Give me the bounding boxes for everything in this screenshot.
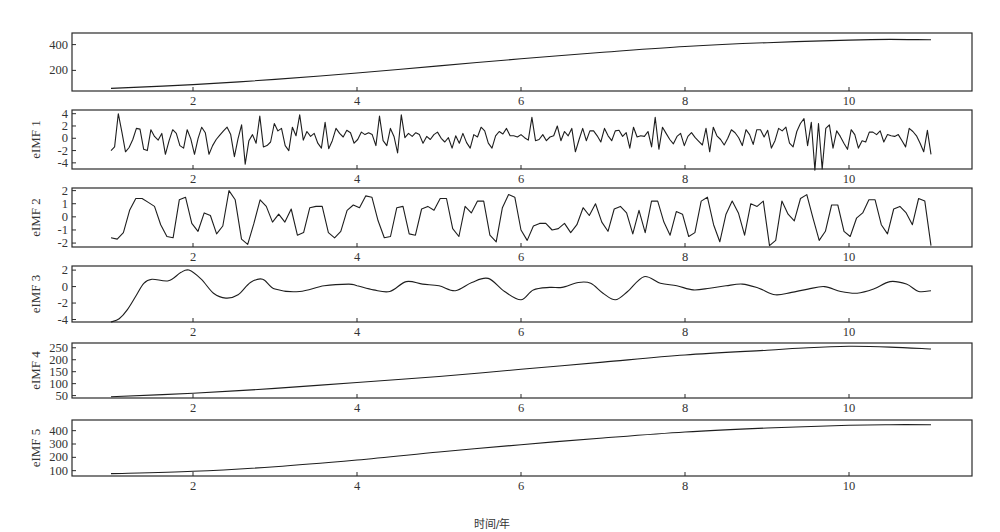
x-tick-label: 6 xyxy=(518,94,524,108)
y-axis-label: eIMF 5 xyxy=(28,429,43,468)
x-tick-label: 2 xyxy=(190,325,196,339)
x-tick-label: 10 xyxy=(843,172,856,186)
y-tick-label: 0 xyxy=(62,131,68,145)
x-tick-label: 8 xyxy=(682,172,688,186)
y-tick-label: 2 xyxy=(62,184,68,198)
y-tick-label: 300 xyxy=(49,437,68,451)
y-tick-label: -2 xyxy=(58,236,68,250)
axes-frame xyxy=(72,188,972,247)
x-axis-label: 时间/年 xyxy=(474,517,511,531)
axes-frame xyxy=(72,266,972,322)
x-tick-label: 6 xyxy=(518,250,524,264)
y-tick-label: 200 xyxy=(49,63,68,77)
x-tick-label: 10 xyxy=(843,325,856,339)
x-tick-label: 10 xyxy=(843,94,856,108)
x-tick-label: 2 xyxy=(190,172,196,186)
x-tick-label: 4 xyxy=(354,325,361,339)
x-tick-label: 8 xyxy=(682,479,688,493)
x-tick-label: 4 xyxy=(354,250,361,264)
x-tick-label: 4 xyxy=(354,401,361,415)
subplot-stack: 200400246810-4-2024246810eIMF 1-2-101224… xyxy=(28,33,972,493)
series-line-eimf5 xyxy=(111,425,931,474)
y-axis-label: eIMF 4 xyxy=(28,351,43,390)
y-tick-label: 2 xyxy=(62,263,68,277)
y-tick-label: 2 xyxy=(62,119,68,133)
x-tick-label: 6 xyxy=(518,325,524,339)
axes-frame xyxy=(72,33,972,91)
x-tick-label: 10 xyxy=(843,250,856,264)
subplot-original: 200400246810 xyxy=(49,33,972,108)
subplot-eimf1: -4-2024246810eIMF 1 xyxy=(28,107,972,186)
x-tick-label: 8 xyxy=(682,401,688,415)
y-tick-label: -4 xyxy=(58,156,69,170)
y-tick-label: 400 xyxy=(49,38,68,52)
subplot-eimf4: 50100150200250246810eIMF 4 xyxy=(28,341,972,415)
series-line-eimf1 xyxy=(111,114,931,171)
subplot-eimf2: -2-1012246810eIMF 2 xyxy=(28,184,972,264)
x-tick-label: 2 xyxy=(190,401,196,415)
x-tick-label: 2 xyxy=(190,94,196,108)
x-tick-label: 4 xyxy=(354,94,361,108)
y-tick-label: -1 xyxy=(58,223,68,237)
series-line-eimf2 xyxy=(111,191,931,246)
x-tick-label: 8 xyxy=(682,325,688,339)
subplot-eimf5: 100200300400246810eIMF 5 xyxy=(28,420,972,493)
emd-decomposition-figure: 200400246810-4-2024246810eIMF 1-2-101224… xyxy=(0,0,1000,532)
x-tick-label: 4 xyxy=(354,172,361,186)
axes-frame xyxy=(72,343,972,398)
y-axis-label: eIMF 1 xyxy=(28,120,43,159)
x-tick-label: 8 xyxy=(682,94,688,108)
x-tick-label: 6 xyxy=(518,479,524,493)
x-tick-label: 4 xyxy=(354,479,361,493)
series-line-eimf3 xyxy=(111,270,931,322)
x-tick-label: 10 xyxy=(843,401,856,415)
y-tick-label: -2 xyxy=(58,144,68,158)
y-tick-label: 200 xyxy=(49,450,68,464)
y-tick-label: 0 xyxy=(62,210,68,224)
x-tick-label: 2 xyxy=(190,479,196,493)
y-tick-label: 100 xyxy=(49,377,68,391)
y-tick-label: 1 xyxy=(62,197,68,211)
axes-frame xyxy=(72,420,972,476)
y-tick-label: -4 xyxy=(58,313,69,327)
y-tick-label: 250 xyxy=(49,341,68,355)
y-tick-label: -2 xyxy=(58,296,68,310)
x-tick-label: 6 xyxy=(518,401,524,415)
series-line-eimf4 xyxy=(111,346,931,397)
y-tick-label: 4 xyxy=(62,107,69,121)
y-tick-label: 150 xyxy=(49,365,68,379)
y-tick-label: 200 xyxy=(49,353,68,367)
series-line-original xyxy=(111,39,931,88)
y-axis-label: eIMF 2 xyxy=(28,198,43,237)
x-tick-label: 8 xyxy=(682,250,688,264)
y-tick-label: 100 xyxy=(49,464,68,478)
x-tick-label: 10 xyxy=(843,479,856,493)
x-tick-label: 6 xyxy=(518,172,524,186)
y-tick-label: 50 xyxy=(56,389,69,403)
subplot-eimf3: -4-202246810eIMF 3 xyxy=(28,263,972,339)
y-axis-label: eIMF 3 xyxy=(28,275,43,314)
x-tick-label: 2 xyxy=(190,250,196,264)
y-tick-label: 0 xyxy=(62,280,68,294)
y-tick-label: 400 xyxy=(49,424,68,438)
